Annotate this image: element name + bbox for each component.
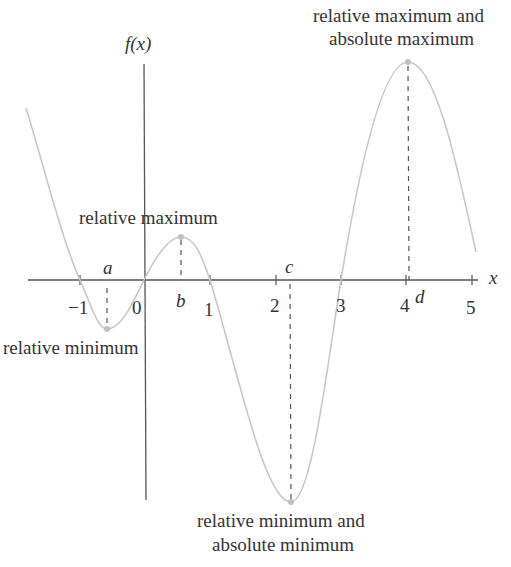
annotation-rel-min: relative minimum [3, 337, 139, 358]
tick-label-5: 5 [466, 297, 476, 318]
dashed-guides [107, 66, 409, 500]
point-b-max [178, 234, 184, 240]
y-axis-label: f(x) [125, 33, 151, 55]
annotation-abs-max-line1: relative maximum and [313, 5, 484, 26]
tick-label-4: 4 [400, 295, 410, 316]
dashed-line-d [408, 66, 409, 280]
point-d-max [405, 59, 411, 65]
point-label-d: d [415, 286, 425, 307]
annotation-abs-max-line2: absolute maximum [329, 28, 474, 49]
point-c-min [288, 499, 294, 505]
tick-label-1: 1 [204, 299, 214, 320]
point-a-min [104, 326, 110, 332]
tick-label-2: 2 [270, 295, 280, 316]
tick-label-neg1: −1 [68, 297, 88, 318]
point-label-b: b [176, 290, 186, 311]
tick-label-0: 0 [132, 297, 142, 318]
extrema-diagram: f(x) x −1 0 1 2 3 4 5 a b c d relative m… [0, 0, 511, 567]
annotation-abs-min-line2: absolute minimum [212, 534, 354, 555]
annotation-abs-min-line1: relative minimum and [197, 510, 365, 531]
x-axis-label: x [488, 267, 498, 288]
annotation-rel-max: relative maximum [79, 207, 218, 228]
point-label-a: a [103, 257, 113, 278]
dashed-line-c [290, 284, 291, 500]
y-axis [144, 64, 146, 500]
point-label-c: c [285, 256, 294, 277]
tick-label-3: 3 [336, 295, 346, 316]
